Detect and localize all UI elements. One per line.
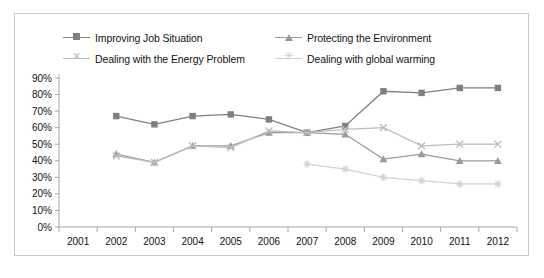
y-axis-ticks: 90%80%70%60%50%40%30%20%10%0%	[32, 73, 59, 233]
x-axis-tick-label: 2004	[181, 236, 204, 247]
data-point-marker	[266, 116, 272, 122]
chart-container: Improving Job Situation Protecting the E…	[14, 13, 529, 256]
data-point-marker	[342, 123, 348, 129]
data-point-marker	[456, 180, 463, 188]
x-axis-tick-label: 2001	[67, 236, 90, 247]
data-point-marker	[342, 165, 349, 173]
x-axis-tick-label: 2007	[296, 236, 319, 247]
plot-area: 90%80%70%60%50%40%30%20%10%0%20012002200…	[15, 14, 528, 255]
data-point-marker	[418, 90, 424, 96]
y-axis-tick-label: 90%	[32, 73, 52, 84]
data-point-marker	[494, 180, 501, 188]
x-axis-tick-label: 2012	[487, 236, 510, 247]
data-point-marker	[113, 113, 119, 119]
series-dealing-with-global-warming	[303, 160, 501, 187]
data-point-marker	[457, 85, 463, 91]
x-axis-tick-label: 2011	[449, 236, 471, 247]
series-line	[116, 88, 498, 133]
y-axis-tick-label: 50%	[32, 139, 52, 150]
y-axis-tick-label: 0%	[38, 222, 53, 233]
data-point-marker	[418, 150, 426, 157]
x-axis-tick-label: 2003	[143, 236, 166, 247]
x-axis-tick-label: 2008	[334, 236, 357, 247]
x-axis-tick-label: 2002	[105, 236, 128, 247]
y-axis-tick-label: 10%	[32, 205, 52, 216]
data-point-marker	[418, 177, 425, 185]
y-axis-tick-label: 70%	[32, 106, 52, 117]
data-point-marker	[151, 121, 157, 127]
data-point-marker	[303, 160, 310, 168]
data-point-marker	[189, 113, 195, 119]
y-axis-tick-label: 30%	[32, 172, 52, 183]
x-axis-tick-label: 2009	[372, 236, 395, 247]
series-protecting-the-environment	[112, 129, 501, 166]
chart-svg: 90%80%70%60%50%40%30%20%10%0%20012002200…	[15, 14, 528, 255]
x-axis-tick-label: 2010	[410, 236, 433, 247]
series-line	[307, 164, 498, 184]
y-axis-tick-label: 20%	[32, 188, 52, 199]
series-improving-job-situation	[113, 85, 501, 136]
data-point-marker	[228, 111, 234, 117]
data-point-marker	[495, 85, 501, 91]
x-axis-tick-label: 2005	[220, 236, 243, 247]
series-line	[116, 133, 498, 163]
y-axis-tick-label: 80%	[32, 89, 52, 100]
y-axis-tick-label: 40%	[32, 155, 52, 166]
data-point-marker	[380, 174, 387, 182]
x-axis-tick-label: 2006	[258, 236, 281, 247]
axes	[59, 74, 517, 227]
x-axis-ticks: 2001200220032004200520062007200820092010…	[59, 227, 517, 247]
data-point-marker	[380, 88, 386, 94]
y-axis-tick-label: 60%	[32, 122, 52, 133]
